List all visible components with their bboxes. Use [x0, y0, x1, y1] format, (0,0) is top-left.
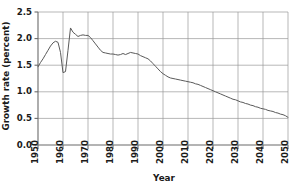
x-tick-label: 1970 [80, 140, 90, 164]
tick-marks [35, 12, 289, 149]
y-tick-label: 2.5 [17, 7, 32, 17]
chart-canvas: 0.00.51.01.52.02.5 195019601970198019902… [0, 0, 294, 185]
x-tick-label: 1950 [30, 140, 40, 164]
y-tick-label: 2.0 [17, 33, 32, 43]
x-tick-label: 1980 [105, 140, 115, 164]
x-tick-label: 2050 [280, 140, 290, 164]
x-tick-label: 2020 [205, 140, 215, 164]
growth-rate-chart: 0.00.51.01.52.02.5 195019601970198019902… [0, 0, 294, 185]
y-tick-labels: 0.00.51.01.52.02.5 [17, 7, 32, 150]
x-tick-label: 2000 [155, 140, 165, 164]
y-tick-label: 0.5 [17, 113, 32, 123]
grid-lines [38, 12, 288, 145]
x-tick-label: 2010 [180, 140, 190, 164]
x-axis-title: Year [152, 173, 175, 183]
x-tick-label: 1960 [55, 140, 65, 164]
y-tick-label: 1.5 [17, 60, 32, 70]
x-tick-label: 2030 [230, 140, 240, 164]
x-tick-label: 2040 [255, 140, 265, 164]
x-tick-label: 1990 [130, 140, 140, 164]
y-tick-label: 1.0 [17, 86, 32, 96]
x-tick-labels: 1950196019701980199020002010202020302040… [30, 140, 290, 164]
y-axis-title: Growth rate (percent) [1, 21, 11, 130]
